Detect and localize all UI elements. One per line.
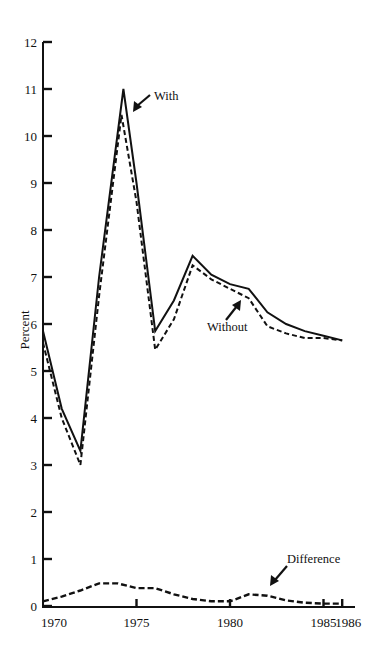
y-tick-label: 4 bbox=[31, 411, 38, 426]
y-tick-label: 7 bbox=[31, 270, 38, 285]
annotation-with: With bbox=[133, 89, 179, 112]
x-tick-label: 1970 bbox=[41, 615, 67, 630]
y-tick-label: 9 bbox=[31, 176, 38, 191]
arrow-without-icon bbox=[226, 306, 237, 320]
series-layer bbox=[43, 89, 342, 604]
y-tick-label: 8 bbox=[31, 223, 38, 238]
annotation-without: Without bbox=[207, 300, 248, 334]
y-tick-label: 12 bbox=[24, 35, 37, 50]
y-tick-label: 1 bbox=[31, 552, 38, 567]
y-axis-label: Percent bbox=[17, 310, 32, 349]
annotation-difference: Difference bbox=[270, 552, 341, 586]
x-tick-label: 1986 bbox=[335, 615, 362, 630]
y-tick-label: 2 bbox=[31, 505, 38, 520]
x-tick-label: 1980 bbox=[217, 615, 243, 630]
x-axis: 19701975198019851986 bbox=[41, 599, 362, 630]
y-tick-label: 5 bbox=[31, 364, 38, 379]
annotation-with-label: With bbox=[154, 89, 179, 103]
series-difference bbox=[43, 583, 342, 603]
arrow-difference-icon bbox=[275, 566, 287, 580]
series-without bbox=[43, 115, 342, 465]
annotation-difference-label: Difference bbox=[287, 552, 341, 566]
y-tick-label: 0 bbox=[31, 599, 38, 614]
arrow-with-icon bbox=[137, 95, 150, 106]
annotation-without-label: Without bbox=[207, 320, 248, 334]
y-tick-label: 3 bbox=[31, 458, 38, 473]
y-tick-label: 11 bbox=[24, 82, 37, 97]
y-tick-label: 10 bbox=[24, 129, 37, 144]
x-tick-label: 1985 bbox=[311, 615, 337, 630]
x-tick-label: 1975 bbox=[124, 615, 150, 630]
line-chart: 0123456789101112 19701975198019851986 Pe… bbox=[0, 0, 386, 661]
